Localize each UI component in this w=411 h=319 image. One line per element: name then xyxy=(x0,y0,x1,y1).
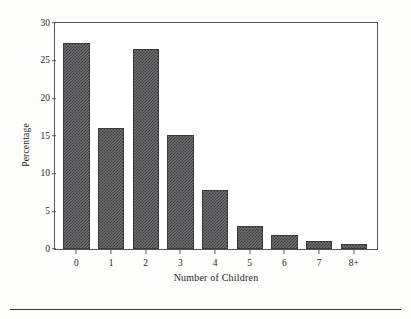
y-axis-tick-label: 5 xyxy=(45,207,55,217)
bar-slot xyxy=(336,23,371,249)
bar-slot xyxy=(94,23,129,249)
bar xyxy=(133,49,159,249)
bar xyxy=(63,43,89,249)
bar-slot xyxy=(302,23,337,249)
bar-slot xyxy=(198,23,233,249)
bar xyxy=(237,226,263,249)
bar-slot xyxy=(267,23,302,249)
bar-slot xyxy=(163,23,198,249)
y-axis-tick-label: 20 xyxy=(41,94,56,104)
bar xyxy=(306,241,332,249)
y-axis-tick-label: 30 xyxy=(41,18,56,28)
bar xyxy=(202,190,228,250)
bar-series xyxy=(55,23,377,249)
bar-chart-figure: Percentage 051015202530 012345678+ Numbe… xyxy=(0,0,411,285)
bar xyxy=(167,135,193,250)
y-axis-tick-label: 10 xyxy=(41,169,56,179)
y-axis-tick-label: 25 xyxy=(41,56,56,66)
bar-slot xyxy=(59,23,94,249)
y-axis-title: Percentage xyxy=(21,100,31,190)
y-axis-tick-label: 0 xyxy=(45,244,55,254)
bar-slot xyxy=(128,23,163,249)
y-axis-tick-label: 15 xyxy=(41,131,56,141)
x-axis-title: Number of Children xyxy=(54,272,378,283)
plot-area: 051015202530 012345678+ xyxy=(54,22,378,250)
figure-page: Percentage 051015202530 012345678+ Numbe… xyxy=(0,0,411,319)
bar xyxy=(271,235,297,249)
bar-slot xyxy=(232,23,267,249)
bar xyxy=(98,128,124,249)
footer-divider xyxy=(10,309,401,310)
